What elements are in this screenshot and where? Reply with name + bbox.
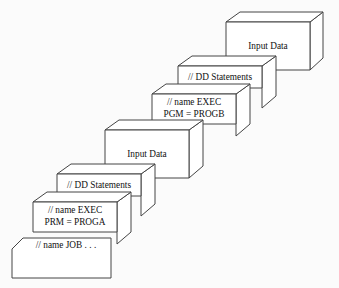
block-job-card-label: // name JOB . . .	[36, 240, 96, 250]
block-dd-statements-lower-label: // DD Statements	[67, 180, 131, 190]
block-dd-statements-upper-label: // DD Statements	[188, 72, 252, 82]
jcl-stack-diagram: Input Data // DD Statements // name EXEC…	[0, 0, 339, 288]
block-exec-progb-top-face	[152, 84, 250, 94]
block-input-data-top-top-face	[226, 12, 323, 22]
diagram-canvas: Input Data // DD Statements // name EXEC…	[0, 0, 339, 288]
block-input-data-top-label: Input Data	[248, 41, 288, 51]
block-dd-statements-lower-top-face	[57, 164, 155, 174]
block-dd-statements-upper-top-face	[178, 56, 276, 66]
block-input-data-middle-top-face	[105, 120, 203, 130]
block-exec-progb-label-line1: // name EXEC	[167, 97, 221, 107]
block-input-data-middle-label: Input Data	[127, 149, 167, 159]
block-exec-progb-label-line2: PGM = PROGB	[163, 109, 224, 119]
block-exec-proga-label-line2: PRM = PROGA	[44, 217, 105, 227]
block-exec-proga-label-line1: // name EXEC	[48, 205, 102, 215]
block-job-card: // name JOB . . .	[12, 238, 111, 278]
block-exec-proga-top-face	[33, 192, 131, 202]
block-exec-proga: // name EXEC PRM = PROGA	[33, 192, 131, 244]
